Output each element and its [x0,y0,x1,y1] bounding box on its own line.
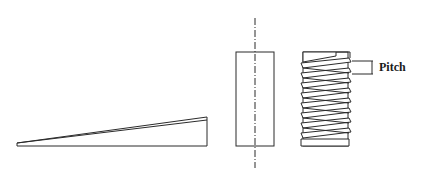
thread [301,68,351,78]
thread [301,128,351,138]
thread [301,78,351,88]
thread [301,118,351,128]
cylinder [236,18,274,168]
thread [301,98,351,108]
thread [301,88,351,98]
inclined-plane [17,117,207,146]
pitch-dimension [352,61,373,74]
screw [301,52,351,146]
simple-machines-diagram [0,0,426,173]
wedge-surface-line [17,120,207,143]
screw-bottom-cap [301,139,349,146]
pitch-label: Pitch [379,60,406,75]
thread [301,108,351,118]
